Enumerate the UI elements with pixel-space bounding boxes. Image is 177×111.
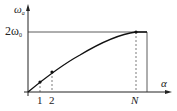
y-axis-label: ωa	[14, 3, 25, 15]
chart-canvas	[0, 0, 177, 111]
x-tick-N: N	[131, 94, 138, 106]
y-axis-arrow-icon	[26, 4, 30, 11]
x-axis-label: α	[161, 77, 167, 89]
point-2	[50, 70, 53, 73]
point-N	[134, 30, 137, 33]
y-tick-2w0: 2ω0	[5, 24, 22, 39]
x-tick-1: 1	[37, 94, 43, 106]
x-tick-2: 2	[49, 94, 55, 106]
curve	[28, 32, 147, 92]
x-axis-arrow-icon	[165, 90, 172, 94]
point-1	[38, 80, 41, 83]
